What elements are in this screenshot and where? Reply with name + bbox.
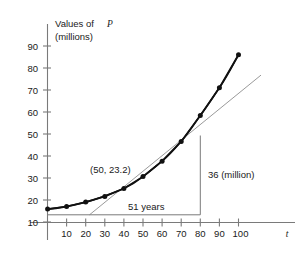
y-tick-label-40: 40 [27, 151, 38, 162]
population-growth-chart: 90 80 70 60 50 40 30 20 10 10 20 30 40 5… [0, 0, 306, 264]
data-point [217, 85, 222, 90]
y-tick-label-50: 50 [27, 129, 38, 140]
tangent-point-label: (50, 23.2) [90, 164, 131, 175]
y-axis-title-variable: P [106, 19, 113, 29]
data-point [102, 194, 107, 199]
x-tick-label-10: 10 [61, 228, 72, 239]
y-tick-label-90: 90 [27, 41, 38, 52]
y-tick-label-80: 80 [27, 63, 38, 74]
y-tick-label-10: 10 [27, 217, 38, 228]
y-axis-title-prefix: Values of [55, 18, 94, 29]
x-tick-label-40: 40 [119, 228, 130, 239]
data-point [141, 174, 146, 179]
x-tick-label-50: 50 [138, 228, 149, 239]
x-tick-label-80: 80 [195, 228, 206, 239]
y-axis-title-units: (millions) [55, 31, 93, 42]
y-tick-label-30: 30 [27, 173, 38, 184]
x-tick-label-100: 100 [233, 228, 249, 239]
x-tick-label-70: 70 [176, 228, 187, 239]
data-point-markers [45, 52, 241, 211]
data-point [160, 159, 165, 164]
data-point [121, 186, 126, 191]
data-point [179, 139, 184, 144]
tangent-line [90, 75, 262, 215]
y-tick-label-60: 60 [27, 107, 38, 118]
data-point [198, 113, 203, 118]
x-tick-label-20: 20 [80, 228, 91, 239]
figure-container: 90 80 70 60 50 40 30 20 10 10 20 30 40 5… [0, 0, 306, 264]
y-tick-label-70: 70 [27, 85, 38, 96]
x-tick-label-60: 60 [157, 228, 168, 239]
run-label: 51 years [128, 201, 165, 212]
y-tick-label-20: 20 [27, 195, 38, 206]
x-tick-label-30: 30 [100, 228, 111, 239]
data-point [83, 200, 88, 205]
x-axis-variable-label: t [286, 229, 289, 239]
population-curve [48, 55, 239, 209]
rise-label: 36 (million) [208, 169, 254, 180]
data-point [236, 52, 241, 57]
data-point [45, 207, 50, 212]
data-point [64, 204, 69, 209]
x-tick-label-90: 90 [214, 228, 225, 239]
population-curve-smooth [48, 55, 239, 209]
